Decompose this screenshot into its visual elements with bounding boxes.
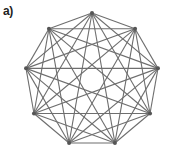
- graph-edge: [34, 114, 69, 143]
- complete-graph-diagram: [0, 0, 173, 147]
- graph-node: [47, 27, 51, 31]
- graph-edge: [26, 68, 115, 143]
- graph-nodes: [24, 11, 160, 145]
- graph-edge: [49, 13, 92, 29]
- graph-node: [113, 141, 117, 145]
- graph-edges: [26, 13, 158, 143]
- graph-node: [90, 11, 94, 15]
- graph-node: [133, 27, 137, 31]
- graph-edge: [49, 29, 158, 69]
- graph-node: [32, 112, 36, 116]
- graph-node: [156, 66, 160, 70]
- graph-edge: [69, 68, 158, 143]
- graph-node: [24, 66, 28, 70]
- graph-node: [148, 112, 152, 116]
- graph-node: [67, 141, 71, 145]
- graph-edge: [92, 13, 135, 29]
- graph-edge: [115, 114, 150, 143]
- graph-edge: [26, 29, 135, 69]
